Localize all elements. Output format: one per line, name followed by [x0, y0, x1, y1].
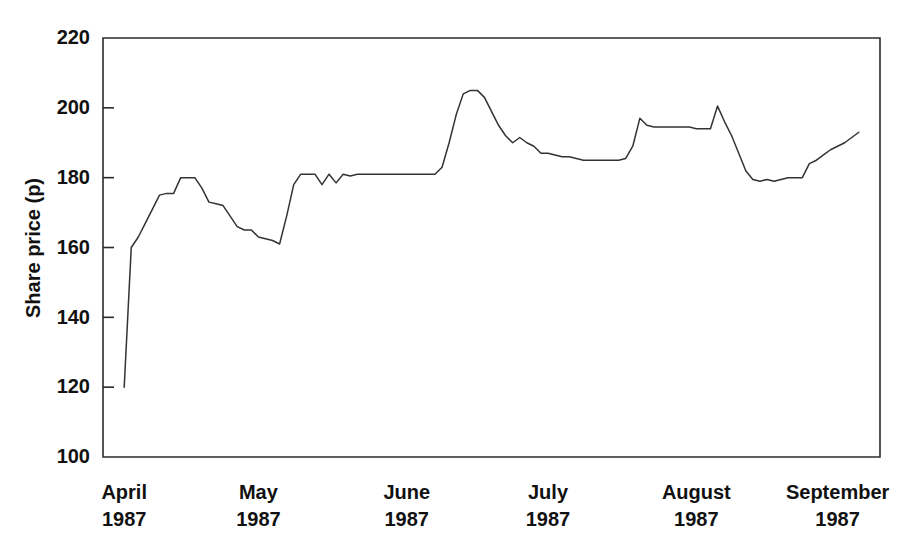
y-tick-label: 100 — [57, 445, 90, 467]
y-tick-marks — [103, 108, 114, 387]
y-tick-label: 200 — [57, 96, 90, 118]
y-tick-labels: 100120140160180200220 — [57, 26, 90, 467]
chart-canvas: 100120140160180200220 April1987May1987Ju… — [0, 0, 921, 557]
x-tick-label-year: 1987 — [384, 508, 429, 530]
x-tick-label-month: June — [383, 481, 430, 503]
series-line-share-price — [124, 90, 859, 387]
x-tick-label-month: July — [528, 481, 569, 503]
x-tick-label-month: September — [786, 481, 890, 503]
x-tick-label-year: 1987 — [815, 508, 860, 530]
share-price-chart: 100120140160180200220 April1987May1987Ju… — [0, 0, 921, 557]
x-tick-label-month: April — [101, 481, 147, 503]
y-axis-title: Share price (p) — [22, 178, 44, 318]
y-tick-label: 120 — [57, 375, 90, 397]
x-tick-labels: April1987May1987June1987July1987August19… — [101, 481, 889, 530]
x-tick-label-year: 1987 — [236, 508, 281, 530]
x-tick-label-month: August — [662, 481, 731, 503]
y-tick-label: 140 — [57, 306, 90, 328]
x-tick-label-year: 1987 — [526, 508, 571, 530]
x-tick-label-month: May — [239, 481, 279, 503]
plot-frame — [103, 38, 880, 457]
y-tick-label: 160 — [57, 236, 90, 258]
x-tick-label-year: 1987 — [674, 508, 719, 530]
y-tick-label: 220 — [57, 26, 90, 48]
data-series-group — [124, 90, 859, 387]
x-tick-label-year: 1987 — [102, 508, 147, 530]
y-tick-label: 180 — [57, 166, 90, 188]
